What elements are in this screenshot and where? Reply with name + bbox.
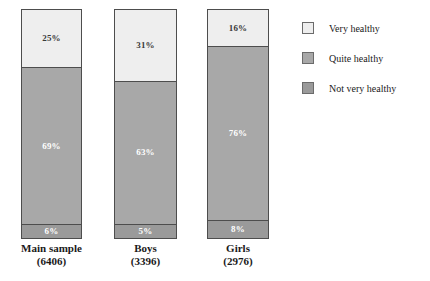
bar-sample-size: (2976) bbox=[185, 255, 291, 268]
segment-value-label: 25% bbox=[42, 34, 61, 43]
legend-label: Quite healthy bbox=[329, 53, 383, 64]
legend-swatch-icon bbox=[302, 22, 314, 34]
bar-segment-not-very-healthy[interactable]: 8% bbox=[208, 220, 268, 238]
segment-value-label: 31% bbox=[136, 41, 155, 50]
segment-value-label: 5% bbox=[139, 227, 153, 236]
legend-label: Very healthy bbox=[329, 23, 380, 34]
bar-segment-very-healthy[interactable]: 31% bbox=[115, 10, 176, 81]
segment-value-label: 63% bbox=[136, 148, 155, 157]
stacked-bar: 16% 76% 8% bbox=[207, 9, 269, 239]
bar-category-label: Girls bbox=[185, 242, 291, 255]
legend-swatch-icon bbox=[302, 52, 314, 64]
legend-label: Not very healthy bbox=[329, 83, 396, 94]
segment-value-label: 6% bbox=[45, 227, 59, 236]
segment-value-label: 8% bbox=[231, 225, 245, 234]
bar-sample-size: (6406) bbox=[0, 255, 104, 268]
bar-segment-quite-healthy[interactable]: 76% bbox=[208, 46, 268, 219]
legend-swatch-icon bbox=[302, 82, 314, 94]
bar-segment-quite-healthy[interactable]: 63% bbox=[115, 81, 176, 225]
bar-caption: Girls (2976) bbox=[185, 242, 291, 268]
bar-caption: Boys (3396) bbox=[92, 242, 199, 268]
stacked-bar-chart-plot-area: 25% 69% 6% Main sample (6406) 31% bbox=[0, 0, 290, 281]
bar-segment-quite-healthy[interactable]: 69% bbox=[22, 67, 81, 224]
stacked-bar: 31% 63% 5% bbox=[114, 9, 177, 239]
bar-group-boys: 31% 63% 5% Boys (3396) bbox=[114, 9, 177, 239]
segment-value-label: 76% bbox=[229, 129, 248, 138]
stacked-bar: 25% 69% 6% bbox=[21, 9, 82, 239]
legend-item-very-healthy[interactable]: Very healthy bbox=[302, 21, 428, 35]
bar-category-label: Boys bbox=[92, 242, 199, 255]
bar-segment-very-healthy[interactable]: 25% bbox=[22, 10, 81, 67]
chart-page: 25% 69% 6% Main sample (6406) 31% bbox=[0, 0, 430, 281]
bar-category-label: Main sample bbox=[0, 242, 104, 255]
bar-segment-not-very-healthy[interactable]: 5% bbox=[115, 224, 176, 238]
chart-legend: Very healthy Quite healthy Not very heal… bbox=[302, 21, 428, 111]
legend-item-not-very-healthy[interactable]: Not very healthy bbox=[302, 81, 428, 95]
bar-segment-very-healthy[interactable]: 16% bbox=[208, 10, 268, 46]
segment-value-label: 69% bbox=[42, 142, 61, 151]
bar-sample-size: (3396) bbox=[92, 255, 199, 268]
bar-group-main-sample: 25% 69% 6% Main sample (6406) bbox=[21, 9, 82, 239]
bar-segment-not-very-healthy[interactable]: 6% bbox=[22, 224, 81, 238]
legend-item-quite-healthy[interactable]: Quite healthy bbox=[302, 51, 428, 65]
segment-value-label: 16% bbox=[229, 24, 248, 33]
bar-caption: Main sample (6406) bbox=[0, 242, 104, 268]
bar-group-girls: 16% 76% 8% Girls (2976) bbox=[207, 9, 269, 239]
